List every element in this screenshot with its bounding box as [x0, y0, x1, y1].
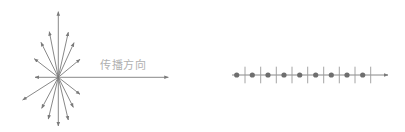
- particle-dot: [234, 72, 239, 77]
- particle-dot: [250, 72, 255, 77]
- vibration-arrow-icon: [41, 42, 58, 77]
- propagation-direction-label: 传播方向: [100, 56, 146, 72]
- particle-dot: [360, 72, 365, 77]
- particle-dot: [265, 72, 270, 77]
- transverse-starburst: [23, 12, 169, 126]
- particle-dot: [344, 72, 349, 77]
- vibration-arrow-icon: [48, 77, 58, 119]
- vibration-arrow-icon: [42, 77, 59, 108]
- particle-dot: [297, 72, 302, 77]
- vibration-arrow-icon: [23, 77, 59, 100]
- longitudinal-chain: [232, 67, 388, 84]
- particle-dot: [313, 72, 318, 77]
- particle-dot: [329, 72, 334, 77]
- vibration-arrow-icon: [58, 43, 74, 78]
- vibration-arrow-icon: [58, 77, 73, 107]
- particle-dot: [281, 72, 286, 77]
- vibration-arrow-icon: [49, 32, 58, 78]
- diagram-canvas: [0, 0, 405, 132]
- vibration-arrow-icon: [34, 59, 58, 78]
